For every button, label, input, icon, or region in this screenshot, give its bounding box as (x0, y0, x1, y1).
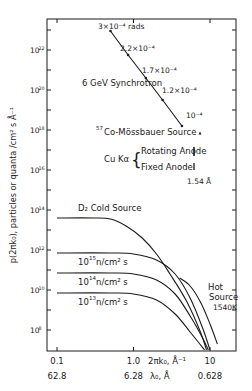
x-tick-label: 0.1 (50, 356, 64, 366)
hot-source-label-2: Source (209, 292, 238, 302)
flux-label-1e14: 10 14 n/cm² s (78, 275, 128, 287)
y-tick-label: 1010 (30, 286, 45, 296)
flux-comparison-chart: 1022102010181016101410121010108 0.162.81… (0, 0, 252, 391)
svg-text:22: 22 (39, 46, 45, 51)
svg-text:20: 20 (39, 86, 45, 91)
x-tick-label-secondary: 6.28 (124, 371, 143, 381)
svg-text:10: 10 (39, 286, 45, 291)
synchrotron-point-label-3: 1.7×10⁻⁴ (142, 66, 177, 75)
fixed-anode-label: Fixed Anode (141, 162, 193, 172)
y-tick-label: 1018 (30, 126, 45, 136)
synchrotron-point-label-4: 1.2×10⁻⁴ (162, 86, 197, 95)
svg-text:10: 10 (78, 297, 89, 307)
x-tick-label-secondary: 0.628 (198, 371, 222, 381)
x-tick-label-secondary: 62.8 (48, 371, 67, 381)
svg-text:n/cm² s: n/cm² s (96, 297, 128, 307)
synchrotron-marker (161, 99, 164, 102)
svg-text:10: 10 (78, 257, 89, 267)
svg-text:8: 8 (39, 326, 42, 331)
d2-cold-source-label: D₂ Cold Source (78, 203, 141, 213)
flux-label-1e13: 10 13 n/cm² s (78, 295, 128, 307)
y-tick-label: 1016 (30, 166, 45, 176)
svg-text:14: 14 (39, 206, 45, 211)
x-tick-label: 1.0 (127, 356, 141, 366)
synchrotron-marker (127, 54, 130, 57)
rotating-anode-label: Rotating Anode (141, 146, 206, 156)
cu-ka-label: Cu Kα (104, 154, 130, 164)
svg-text:16: 16 (39, 166, 45, 171)
synchrotron-point-label-2: 2.2×10⁻⁴ (120, 44, 155, 53)
x-tick-label: 10 (205, 356, 216, 366)
svg-text:18: 18 (39, 126, 45, 131)
mossbauer-marker (199, 132, 202, 135)
mossbauer-label-sup: 57 (96, 125, 103, 131)
hot-source-label-1: Hot (208, 282, 224, 292)
svg-text:12: 12 (39, 246, 45, 251)
cu-wavelength-label: 1.54 Å (187, 177, 212, 186)
x-axis-label: 2πk₀, Å⁻¹ (148, 355, 186, 366)
svg-text:n/cm² s: n/cm² s (96, 277, 128, 287)
y-tick-label: 1020 (30, 86, 45, 96)
y-tick-label: 1014 (30, 206, 45, 216)
x-axis-label-secondary: λ₀, Å (150, 370, 170, 381)
flux-label-1e15: 10 15 n/cm² s (78, 255, 128, 267)
y-tick-label: 1022 (30, 46, 45, 56)
synchrotron-point-label-1: 3×10⁻⁴ rads (98, 22, 144, 31)
y-axis-label: p(2πk₀), particles or quanta /cm² s Å⁻¹ (7, 107, 18, 263)
y-tick-label: 108 (30, 326, 42, 336)
synchrotron-label: 6 GeV Synchrotron (82, 78, 162, 88)
hot-source-label-3: 1540K (213, 303, 238, 312)
y-tick-label: 1012 (30, 246, 45, 256)
mossbauer-label: Co-Mössbauer Source (104, 127, 196, 137)
svg-text:n/cm² s: n/cm² s (96, 257, 128, 267)
svg-text:10: 10 (78, 277, 89, 287)
synchrotron-point-label-5: 10⁻⁴ (186, 111, 203, 120)
